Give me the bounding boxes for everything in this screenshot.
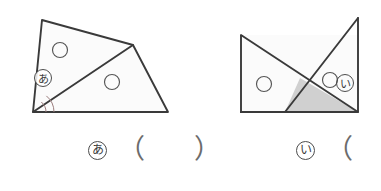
angle-label-a-on-figure: あ xyxy=(34,69,52,87)
answer-close-paren-a: ） xyxy=(194,135,221,162)
answer-label-i-text: い xyxy=(300,144,312,156)
answer-slot-i: い （ xyxy=(296,130,353,170)
answer-close-paren-a-wrap: ） xyxy=(194,130,221,170)
answer-label-a: あ xyxy=(88,141,107,160)
figure-left-group xyxy=(33,20,168,112)
answer-label-i: い xyxy=(296,141,315,160)
figure-right-group xyxy=(240,18,358,112)
answer-open-paren-i: （ xyxy=(326,135,353,162)
angle-label-i-on-figure: い xyxy=(336,74,354,92)
worksheet-canvas: あ い あ （ ） い （ xyxy=(0,0,381,191)
answer-row: あ （ ） い （ xyxy=(0,126,381,184)
answer-label-a-text: あ xyxy=(92,144,104,156)
answer-slot-a: あ （ xyxy=(88,130,145,170)
angle-label-i-text: い xyxy=(340,75,351,91)
answer-open-paren-a: （ xyxy=(118,135,145,162)
angle-label-a-text: あ xyxy=(38,70,49,86)
